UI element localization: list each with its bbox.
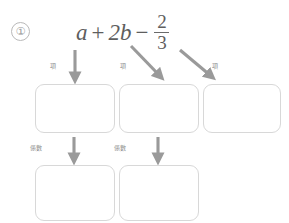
arrow-term-3 <box>180 50 211 76</box>
algebraic-expression: a + 2b − 2 3 <box>76 13 169 52</box>
arrow-label-term-2: 項 <box>120 61 126 70</box>
answer-box-term-3[interactable] <box>203 84 281 133</box>
answer-box-coefficient-2[interactable] <box>119 165 199 221</box>
fraction-denominator: 3 <box>155 33 169 52</box>
worksheet-canvas: ① a + 2b − 2 3 項 項 項 係數 係數 <box>0 0 289 223</box>
expression-term-a: a <box>76 20 88 46</box>
expression-fraction-two-thirds: 2 3 <box>154 13 169 52</box>
answer-box-coefficient-1[interactable] <box>35 165 115 221</box>
answer-box-term-1[interactable] <box>35 84 115 133</box>
expression-term-2b: 2b <box>108 20 131 46</box>
answer-box-term-2[interactable] <box>119 84 199 133</box>
expression-operator-plus: + <box>88 20 109 46</box>
arrow-label-coefficient-2: 係數 <box>114 143 126 152</box>
arrow-label-term-3: 項 <box>212 61 218 70</box>
fraction-numerator: 2 <box>155 13 169 32</box>
problem-number: ① <box>11 22 30 41</box>
expression-operator-minus: − <box>131 20 152 46</box>
arrow-label-term-1: 項 <box>50 61 56 70</box>
arrow-label-coefficient-1: 係數 <box>30 143 42 152</box>
